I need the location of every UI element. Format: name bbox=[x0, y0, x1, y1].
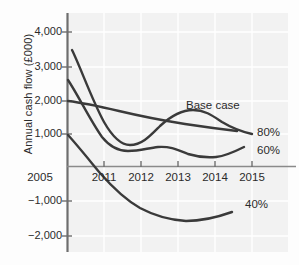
series-label-40: 40% bbox=[245, 198, 268, 210]
series-label-80: 80% bbox=[257, 126, 280, 138]
y-tick-label-neg1000: −1,000 bbox=[10, 194, 62, 206]
y-tick-label-1000: 1,000 bbox=[14, 127, 62, 139]
series-label-60: 60% bbox=[257, 144, 280, 156]
x-tick-label-2005: 2005 bbox=[14, 171, 66, 183]
chart-container: Annual cash flow (£000) 4,000 3,000 2,00… bbox=[0, 0, 299, 265]
y-tick-label-2000: 2,000 bbox=[14, 94, 62, 106]
y-tick-label-neg2000: −2,000 bbox=[10, 229, 62, 241]
series-label-base-case: Base case bbox=[186, 99, 240, 111]
y-tick-label-3000: 3,000 bbox=[14, 60, 62, 72]
y-tick-label-4000: 4,000 bbox=[14, 25, 62, 37]
x-tick-label-2015: 2015 bbox=[226, 171, 278, 183]
